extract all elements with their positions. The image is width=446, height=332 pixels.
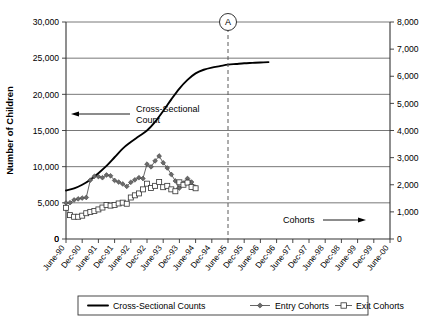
entry-cohort-point bbox=[84, 195, 89, 200]
y2-tick-label: 4,000 bbox=[397, 126, 419, 136]
y2-tick-label: 2,000 bbox=[397, 180, 419, 190]
cross-sectional-line bbox=[66, 62, 269, 190]
entry-cohort-point bbox=[76, 196, 81, 201]
entry-cohort-point bbox=[80, 196, 85, 201]
y2-tick-label: 6,000 bbox=[397, 71, 419, 81]
y-tick-label: 15,000 bbox=[33, 126, 60, 136]
cross-sectional-annot-line1: Cross-Sectional bbox=[136, 104, 200, 114]
series-exit-cohorts bbox=[64, 180, 199, 220]
y-tick-label: 20,000 bbox=[33, 90, 60, 100]
legend-marker-exit-square bbox=[341, 303, 346, 308]
entry-cohort-point bbox=[68, 200, 73, 205]
y-axis-right-ticks: 01,0002,0003,0004,0005,0006,0007,0008,00… bbox=[390, 17, 419, 244]
cohorts-annot-label: Cohorts bbox=[283, 215, 315, 225]
y-axis-left-ticks: 05,00010,00015,00020,00025,00030,000 bbox=[33, 17, 66, 244]
legend-label-exit-cohorts: Exit Cohorts bbox=[356, 301, 405, 311]
entry-cohort-point bbox=[149, 164, 154, 169]
y2-tick-label: 8,000 bbox=[397, 17, 419, 27]
y-zero-label: 0 bbox=[54, 234, 59, 244]
entry-cohort-point bbox=[137, 175, 142, 180]
callout-a-label: A bbox=[225, 17, 231, 27]
chart-legend: Cross-Sectional CountsEntry CohortsExit … bbox=[78, 296, 405, 315]
series-cross-sectional-counts bbox=[66, 62, 269, 190]
entry-cohort-point bbox=[145, 162, 150, 167]
y-tick-label: 30,000 bbox=[33, 17, 60, 27]
cohorts-annotation: Cohorts bbox=[283, 215, 366, 225]
exit-cohort-point bbox=[157, 180, 162, 185]
legend-label-entry-cohorts: Entry Cohorts bbox=[275, 301, 329, 311]
y-tick-label: 10,000 bbox=[33, 162, 60, 172]
exit-cohort-point bbox=[124, 201, 129, 206]
cross-sectional-annot-line2: Count bbox=[136, 115, 161, 125]
exit-cohort-point bbox=[140, 187, 145, 192]
y2-tick-label: 7,000 bbox=[397, 44, 419, 54]
y2-tick-label: 5,000 bbox=[397, 99, 419, 109]
x-axis-ticks: June-90Dec-90June-91Dec-91June-92Dec-92J… bbox=[41, 239, 391, 273]
y-tick-label: 5,000 bbox=[37, 198, 59, 208]
cohorts-arrowhead-right bbox=[358, 217, 366, 222]
entry-cohort-point bbox=[104, 173, 109, 178]
exit-cohort-point bbox=[193, 186, 198, 191]
y2-tick-label: 0 bbox=[397, 234, 402, 244]
exit-cohort-point bbox=[173, 189, 178, 194]
line-chart: 05,00010,00015,00020,00025,00030,00001,0… bbox=[0, 0, 446, 332]
chart-figure: 05,00010,00015,00020,00025,00030,00001,0… bbox=[0, 0, 446, 332]
cross-sectional-annotation: Cross-SectionalCount bbox=[71, 104, 200, 125]
entry-cohort-point bbox=[72, 198, 77, 203]
legend-label-cross-sectional: Cross-Sectional Counts bbox=[113, 301, 206, 311]
annotation-arrowhead-left bbox=[71, 111, 79, 116]
entry-cohort-point bbox=[141, 176, 146, 181]
callout-a-group: A bbox=[220, 14, 237, 240]
entry-cohort-point bbox=[100, 175, 105, 180]
exit-cohort-point bbox=[64, 205, 69, 210]
y-tick-label: 25,000 bbox=[33, 53, 60, 63]
entry-cohort-point bbox=[169, 172, 174, 177]
y-axis-title: Number of Children bbox=[4, 86, 15, 175]
y2-tick-label: 1,000 bbox=[397, 207, 419, 217]
y2-tick-label: 3,000 bbox=[397, 153, 419, 163]
entry-cohort-point bbox=[132, 177, 137, 182]
